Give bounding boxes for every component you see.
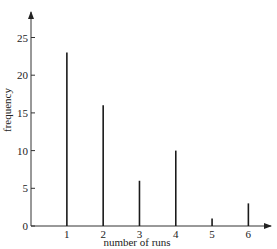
x-tick-label: 1 bbox=[64, 228, 70, 240]
x-tick-label: 5 bbox=[209, 228, 215, 240]
x-tick-label: 4 bbox=[173, 228, 179, 240]
bars bbox=[67, 53, 249, 226]
y-axis-label: frequency bbox=[1, 88, 13, 132]
bar-chart: 0510152025 123456 number of runs frequen… bbox=[0, 0, 277, 249]
x-tick-label: 6 bbox=[246, 228, 252, 240]
y-tick-label: 15 bbox=[17, 107, 29, 119]
y-tick-label: 20 bbox=[17, 69, 29, 81]
y-tick-label: 10 bbox=[17, 145, 29, 157]
y-tick-label: 5 bbox=[23, 182, 29, 194]
y-tick-label: 0 bbox=[23, 220, 29, 232]
x-axis-label: number of runs bbox=[103, 236, 170, 248]
y-tick-label: 25 bbox=[17, 32, 29, 44]
y-ticks: 0510152025 bbox=[17, 32, 35, 233]
